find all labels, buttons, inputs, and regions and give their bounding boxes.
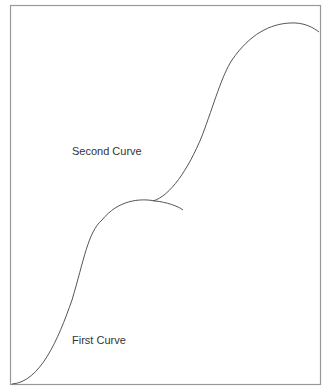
second-curve: [153, 23, 319, 201]
first-curve-label: First Curve: [72, 334, 126, 346]
s-curve-diagram: [0, 0, 328, 392]
frame: [11, 6, 321, 385]
first-curve: [12, 200, 183, 384]
second-curve-label: Second Curve: [72, 145, 142, 157]
